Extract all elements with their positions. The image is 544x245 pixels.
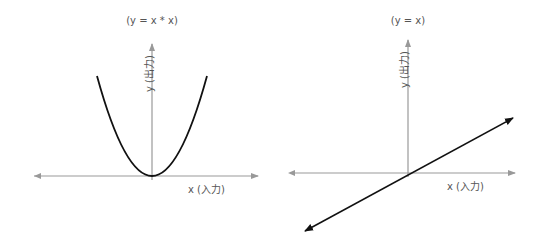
x-axis-label: x (入力) bbox=[188, 181, 225, 196]
chart-title: (y = x * x) bbox=[126, 15, 178, 26]
parabola-plot bbox=[0, 0, 272, 245]
linear-diagram: (y = x) y (出力) x (入力) bbox=[272, 0, 544, 245]
linear-function-line bbox=[305, 118, 513, 231]
y-axis-label: y (出力) bbox=[141, 55, 156, 92]
y-axis-label: y (出力) bbox=[396, 51, 411, 88]
x-axis-label: x (入力) bbox=[447, 178, 484, 193]
chart-title: (y = x) bbox=[391, 15, 425, 26]
linear-plot bbox=[272, 0, 544, 245]
x-axis-left-arrow-icon bbox=[288, 170, 295, 176]
parabola-diagram: (y = x * x) y (出力) x (入力) bbox=[0, 0, 272, 245]
x-axis-left-arrow-icon bbox=[34, 173, 41, 179]
